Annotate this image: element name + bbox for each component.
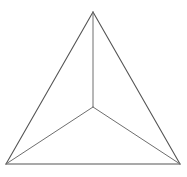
tetrahedron-wireframe-figure: Tetrahedron wireframe line drawing An eq… [0,0,187,177]
